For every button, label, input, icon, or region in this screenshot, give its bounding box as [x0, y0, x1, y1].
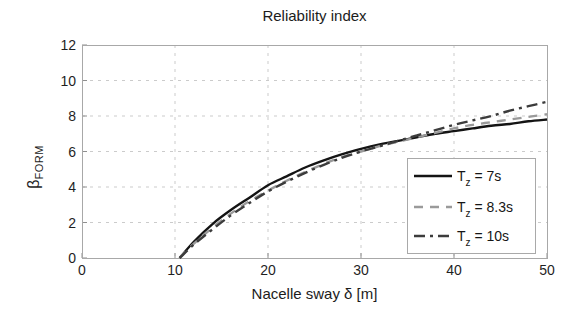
y-tick-label: 6 [30, 144, 76, 160]
y-axis-label: βFORM [24, 122, 44, 212]
x-tick-label: 30 [341, 262, 381, 278]
x-tick-label: 20 [248, 262, 288, 278]
y-tick-label: 8 [30, 108, 76, 124]
reliability-index-figure: Reliability index βFORM Nacelle sway δ [… [0, 0, 584, 322]
legend-entry-label: Tz = 7s [457, 166, 501, 186]
x-tick-label: 0 [62, 262, 102, 278]
legend-entry-label: Tz = 8.3s [457, 197, 513, 217]
legend-entry-label: Tz = 10s [457, 226, 509, 246]
x-axis-label: Nacelle sway δ [m] [82, 285, 547, 303]
x-tick-label: 10 [155, 262, 195, 278]
x-tick-label: 40 [434, 262, 474, 278]
y-tick-label: 4 [30, 179, 76, 195]
chart-title: Reliability index [82, 6, 547, 26]
y-tick-label: 2 [30, 215, 76, 231]
x-tick-label: 50 [527, 262, 567, 278]
y-tick-label: 12 [30, 37, 76, 53]
y-tick-label: 10 [30, 73, 76, 89]
